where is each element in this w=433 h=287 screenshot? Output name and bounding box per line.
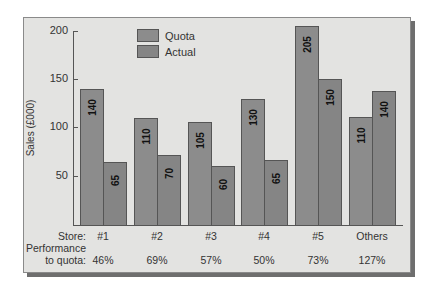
bar-actual-store-1: 65 xyxy=(103,162,127,226)
performance-store-3: 57% xyxy=(186,254,236,266)
bar-actual-store-4: 65 xyxy=(264,160,288,226)
bar-quota-store-5: 205 xyxy=(295,26,319,226)
bar-value-label: 105 xyxy=(195,132,206,149)
performance-row-label-1: Performance xyxy=(16,242,86,254)
bar-value-label: 65 xyxy=(271,173,282,184)
y-tick-200: 200 xyxy=(38,24,68,36)
y-tick-50: 50 xyxy=(38,169,68,181)
store-row-label: Store: xyxy=(16,230,86,242)
bar-value-label: 205 xyxy=(302,36,313,53)
bar-actual-store-2: 70 xyxy=(157,155,181,226)
bar-quota-store-4: 130 xyxy=(241,99,265,226)
category-label-store-4: #4 xyxy=(239,230,289,242)
bar-actual-others: 140 xyxy=(372,91,396,226)
bar-quota-store-3: 105 xyxy=(188,122,212,226)
bar-value-label: 70 xyxy=(164,168,175,179)
category-label-store-5: #5 xyxy=(293,230,343,242)
y-tickmark-150 xyxy=(73,79,78,80)
performance-row-label-2: to quota: xyxy=(16,254,86,266)
performance-store-2: 69% xyxy=(132,254,182,266)
bar-quota-store-2: 110 xyxy=(134,118,158,226)
legend-label-actual: Actual xyxy=(165,46,196,58)
legend-swatch-actual xyxy=(137,45,159,58)
bar-value-label: 110 xyxy=(141,128,152,144)
bar-value-label: 65 xyxy=(110,175,121,186)
performance-store-4: 50% xyxy=(239,254,289,266)
bar-value-label: 130 xyxy=(248,109,259,126)
category-label-store-3: #3 xyxy=(186,230,236,242)
category-label-others: Others xyxy=(347,230,397,242)
performance-others: 127% xyxy=(347,254,397,266)
bar-actual-store-5: 150 xyxy=(318,79,342,226)
y-tickmark-200 xyxy=(73,31,78,32)
bar-value-label: 60 xyxy=(218,179,229,190)
bar-value-label: 150 xyxy=(325,89,336,106)
bar-value-label: 140 xyxy=(87,99,98,116)
y-tickmark-100 xyxy=(73,127,78,128)
bar-actual-store-3: 60 xyxy=(211,166,235,226)
legend-label-quota: Quota xyxy=(165,30,195,42)
bar-quota-others: 110 xyxy=(349,117,373,226)
y-tick-100: 100 xyxy=(38,120,68,132)
y-tick-150: 150 xyxy=(38,72,68,84)
performance-store-1: 46% xyxy=(78,254,128,266)
category-label-store-2: #2 xyxy=(132,230,182,242)
chart-plot: Sales (£000) 200 150 100 50 Quota Actual… xyxy=(0,0,433,287)
bar-quota-store-1: 140 xyxy=(80,89,104,226)
category-label-store-1: #1 xyxy=(78,230,128,242)
legend-swatch-quota xyxy=(137,29,159,42)
y-tickmark-50 xyxy=(73,176,78,177)
bar-value-label: 140 xyxy=(379,101,390,118)
bar-value-label: 110 xyxy=(356,127,367,143)
y-axis xyxy=(73,31,74,225)
performance-store-5: 73% xyxy=(293,254,343,266)
y-axis-label: Sales (£000) xyxy=(25,100,36,157)
